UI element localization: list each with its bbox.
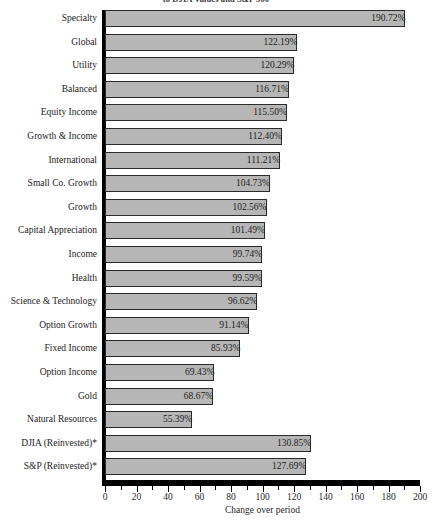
bar-row: 116.71% [105, 81, 420, 98]
bar-value-label: 68.67% [105, 388, 217, 405]
category-label: Natural Resources [2, 411, 102, 428]
bar-value-label: 99.74% [105, 246, 266, 263]
bar-value-label: 99.59% [105, 270, 266, 287]
bar-row: 101.49% [105, 222, 420, 239]
category-label: Specialty [2, 10, 102, 27]
bar-value-label: 112.40% [105, 128, 286, 145]
bar-value-label: 116.71% [105, 81, 293, 98]
bar-value-label: 122.19% [105, 34, 301, 51]
axis-minor-tick [310, 486, 311, 490]
bar-row: 99.74% [105, 246, 420, 263]
bar-row: 112.40% [105, 128, 420, 145]
bar-row: 96.62% [105, 293, 420, 310]
axis-minor-tick [341, 486, 342, 490]
bar-row: 120.29% [105, 57, 420, 74]
axis-minor-tick [152, 486, 153, 490]
category-label: Equity Income [2, 104, 102, 121]
bar-row: 130.85% [105, 435, 420, 452]
bar-value-label: 130.85% [105, 435, 315, 452]
category-label: International [2, 152, 102, 169]
category-label: Global [2, 34, 102, 51]
category-label: Gold [2, 388, 102, 405]
category-label: Option Growth [2, 317, 102, 334]
category-label: Option Income [2, 364, 102, 381]
bar-value-label: 102.56% [105, 199, 271, 216]
bar-row: 85.93% [105, 340, 420, 357]
axis-minor-tick [247, 486, 248, 490]
value-axis-tick-labels: 020406080100120140160180200 [0, 492, 432, 506]
category-label: Fixed Income [2, 340, 102, 357]
chart-title: to DJIA Values and S&P 500 [0, 0, 432, 3]
category-label: Small Co. Growth [2, 175, 102, 192]
category-label: S&P (Reinvested)* [2, 458, 102, 475]
bar-row: 115.50% [105, 104, 420, 121]
axis-minor-tick [215, 486, 216, 490]
category-label: Capital Appreciation [2, 222, 102, 239]
category-label: Science & Technology [2, 293, 102, 310]
bar-chart: to DJIA Values and S&P 500 SpecialtyGlob… [0, 0, 432, 524]
bar-value-label: 190.72% [105, 10, 409, 27]
category-label: Growth [2, 199, 102, 216]
bar-value-label: 91.14% [105, 317, 253, 334]
axis-minor-tick [278, 486, 279, 490]
bar-value-label: 101.49% [105, 222, 269, 239]
bar-value-label: 120.29% [105, 57, 298, 74]
category-label: DJIA (Reinvested)* [2, 435, 102, 452]
bar-row: 91.14% [105, 317, 420, 334]
bar-row: 102.56% [105, 199, 420, 216]
figure-caption [0, 519, 432, 524]
axis-minor-tick [373, 486, 374, 490]
bar-row: 190.72% [105, 10, 420, 27]
value-axis-title: Change over period [105, 505, 420, 515]
bar-row: 69.43% [105, 364, 420, 381]
plot-area: 190.72%122.19%120.29%116.71%115.50%112.4… [105, 10, 420, 480]
bar-row: 55.39% [105, 411, 420, 428]
category-label: Growth & Income [2, 128, 102, 145]
bar-value-label: 85.93% [105, 340, 244, 357]
bar-row: 127.69% [105, 458, 420, 475]
axis-tick-label: 200 [400, 492, 432, 502]
category-label: Balanced [2, 81, 102, 98]
category-label: Utility [2, 57, 102, 74]
bar-value-label: 115.50% [105, 104, 291, 121]
bar-row: 111.21% [105, 152, 420, 169]
bar-value-label: 127.69% [105, 458, 310, 475]
axis-minor-tick [121, 486, 122, 490]
axis-minor-tick [184, 486, 185, 490]
bar-value-label: 69.43% [105, 364, 218, 381]
category-label: Income [2, 246, 102, 263]
axis-minor-tick [404, 486, 405, 490]
bar-row: 68.67% [105, 388, 420, 405]
bar-value-label: 104.73% [105, 175, 274, 192]
bar-value-label: 96.62% [105, 293, 261, 310]
bar-value-label: 111.21% [105, 152, 284, 169]
bar-row: 122.19% [105, 34, 420, 51]
category-label: Health [2, 270, 102, 287]
bar-row: 99.59% [105, 270, 420, 287]
bar-row: 104.73% [105, 175, 420, 192]
bar-value-label: 55.39% [105, 411, 196, 428]
